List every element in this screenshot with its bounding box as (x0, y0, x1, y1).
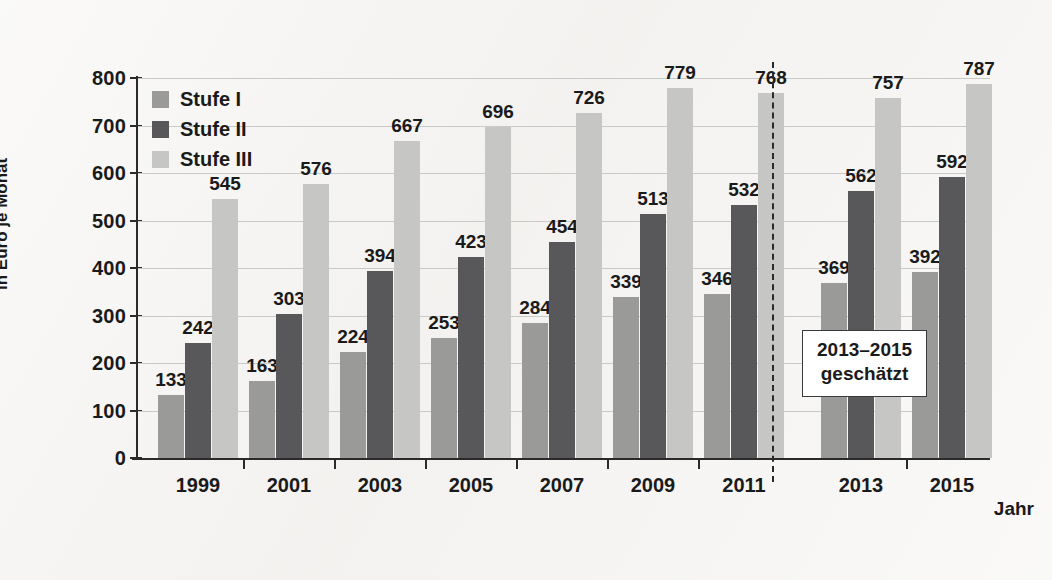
bar (367, 271, 393, 458)
bar (303, 184, 329, 458)
legend-label: Stufe I (180, 89, 241, 109)
x-axis-tick-mark (906, 458, 908, 469)
legend-label: Stufe II (180, 119, 247, 139)
bar-value-label: 787 (944, 58, 1014, 80)
x-axis-tick-label: 2011 (689, 474, 799, 497)
bar (731, 205, 757, 458)
bar (875, 98, 901, 458)
bar (485, 127, 511, 458)
forecast-divider-line (772, 62, 774, 482)
bar (704, 294, 730, 458)
bar (458, 257, 484, 458)
legend-item: Stufe I (152, 84, 302, 114)
x-axis-tick-mark (516, 458, 518, 469)
bar-group: 339513779 (613, 78, 693, 458)
bar (185, 343, 211, 458)
x-axis-line (132, 458, 990, 460)
bar (340, 352, 366, 458)
legend-label: Stufe III (180, 149, 252, 169)
y-axis-tick-label: 600 (92, 162, 126, 185)
bar (966, 84, 992, 458)
bar-group: 224394667 (340, 78, 420, 458)
bar (640, 214, 666, 458)
bar (758, 93, 784, 458)
bar (848, 191, 874, 458)
forecast-note-line-2: geschätzt (817, 362, 912, 386)
bar (431, 338, 457, 458)
legend: Stufe IStufe IIStufe III (152, 84, 302, 174)
legend-swatch (152, 121, 169, 138)
y-axis-tick-label: 700 (92, 114, 126, 137)
bar-group: 392592787 (912, 78, 992, 458)
legend-swatch (152, 91, 169, 108)
x-axis-tick-mark (243, 458, 245, 469)
forecast-note: 2013–2015 geschätzt (802, 330, 927, 397)
bar (939, 177, 965, 458)
bar (276, 314, 302, 458)
x-axis-tick-mark (698, 458, 700, 469)
y-axis-tick-label: 0 (115, 447, 126, 470)
y-axis-tick-label: 500 (92, 209, 126, 232)
bar (394, 141, 420, 458)
x-axis-tick-mark (334, 458, 336, 469)
bar-group: 284454726 (522, 78, 602, 458)
x-axis-tick-mark (425, 458, 427, 469)
y-axis-line (136, 76, 138, 459)
legend-item: Stufe II (152, 114, 302, 144)
legend-swatch (152, 151, 169, 168)
y-axis-tick-label: 300 (92, 304, 126, 327)
bar (212, 199, 238, 458)
x-axis-tick-label: 2015 (897, 474, 1007, 497)
bar-group: 253423696 (431, 78, 511, 458)
x-axis-title: Jahr (994, 498, 1034, 520)
y-axis-tick-label: 200 (92, 352, 126, 375)
bar-group: 369562757 (821, 78, 901, 458)
bar-value-label: 768 (736, 67, 806, 89)
y-axis-tick-label: 800 (92, 67, 126, 90)
y-axis-ticks: 0100200300400500600700800 (0, 0, 126, 580)
bar (249, 381, 275, 458)
legend-item: Stufe III (152, 144, 302, 174)
y-axis-tick-label: 400 (92, 257, 126, 280)
bar (549, 242, 575, 458)
bar (613, 297, 639, 458)
x-axis-tick-mark (607, 458, 609, 469)
bar (158, 395, 184, 458)
chart-page: in Euro je Monat 01002003004005006007008… (0, 0, 1052, 580)
forecast-note-line-1: 2013–2015 (817, 338, 912, 362)
y-axis-tick-label: 100 (92, 399, 126, 422)
bar (522, 323, 548, 458)
